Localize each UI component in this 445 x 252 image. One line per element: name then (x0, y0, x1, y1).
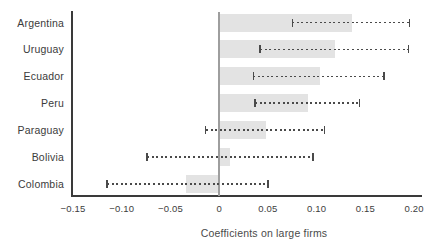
error-cap-high-colombia (267, 180, 269, 188)
category-axis-labels: ArgentinaUruguayEcuadorPeruParaguayBoliv… (0, 12, 64, 196)
error-cap-high-peru (359, 99, 361, 107)
error-bar-peru (255, 102, 359, 104)
error-cap-low-peru (254, 99, 256, 107)
category-label-uruguay: Uruguay (0, 43, 64, 55)
x-tick-label-005-neg: −0.05 (158, 203, 183, 214)
error-bar-argentina (292, 22, 409, 24)
error-bar-paraguay (206, 129, 325, 131)
zero-line (218, 12, 220, 196)
error-cap-low-uruguay (259, 45, 261, 53)
error-cap-high-ecuador (383, 72, 385, 80)
category-label-peru: Peru (0, 97, 64, 109)
error-cap-high-bolivia (312, 153, 314, 161)
category-label-bolivia: Bolivia (0, 151, 64, 163)
error-cap-low-bolivia (146, 153, 148, 161)
error-cap-high-uruguay (408, 45, 410, 53)
x-tick-label-010-neg: −0.10 (109, 203, 134, 214)
error-bar-colombia (107, 183, 268, 185)
category-label-argentina: Argentina (0, 17, 64, 29)
x-tick-label-005: 0.05 (258, 203, 277, 214)
error-bar-ecuador (253, 76, 384, 78)
error-bar-uruguay (260, 49, 408, 51)
error-cap-low-paraguay (205, 126, 207, 134)
category-label-colombia: Colombia (0, 178, 64, 190)
coefficients-chart: ArgentinaUruguayEcuadorPeruParaguayBoliv… (0, 0, 445, 252)
x-tick-label-0: 0 (216, 203, 221, 214)
plot-area (72, 12, 421, 196)
category-label-ecuador: Ecuador (0, 70, 64, 82)
x-tick-label-015: 0.15 (356, 203, 375, 214)
error-bar-bolivia (147, 156, 313, 158)
x-axis-title: Coefficients on large firms (201, 227, 328, 239)
x-tick-label-010: 0.10 (307, 203, 326, 214)
error-cap-low-colombia (106, 180, 108, 188)
x-tick-label-015-neg: −0.15 (60, 203, 85, 214)
error-cap-low-argentina (292, 19, 294, 27)
x-tick-label-020: 0.20 (405, 203, 424, 214)
category-label-paraguay: Paraguay (0, 124, 64, 136)
error-cap-high-argentina (409, 19, 411, 27)
error-cap-low-ecuador (253, 72, 255, 80)
error-cap-high-paraguay (324, 126, 326, 134)
